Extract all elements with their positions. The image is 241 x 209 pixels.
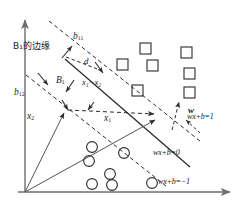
label-eq-minus-one: wx+b=−1 xyxy=(158,178,190,186)
data-point-circle-support xyxy=(119,148,130,159)
label-eq-zero: wx+b=0 xyxy=(153,149,179,157)
label-eq-plus-one: wx+b=1 xyxy=(187,113,213,121)
label-x2-subscript: 2 xyxy=(31,115,34,121)
label-x1-subscript: 1 xyxy=(108,117,111,123)
label-b11-subscript: 11 xyxy=(78,35,84,41)
label-x1: x1 xyxy=(104,114,111,124)
data-point-circle xyxy=(87,142,98,153)
vector-x2-ray xyxy=(25,113,64,192)
data-point-square xyxy=(117,59,128,70)
data-point-circle xyxy=(107,180,118,191)
label-B1-subscript: 1 xyxy=(62,79,65,85)
data-point-square xyxy=(184,68,195,79)
leader-B1-tick xyxy=(62,100,68,110)
margin-line-b11 xyxy=(49,21,200,141)
data-point-square xyxy=(140,43,151,54)
data-point-circle-support xyxy=(147,178,158,189)
label-B1: B1 xyxy=(56,76,65,86)
data-point-square-support xyxy=(132,85,143,96)
label-margin-of-b1: B₁的边缘 xyxy=(13,42,50,51)
label-d: d xyxy=(84,57,89,66)
data-point-square xyxy=(181,47,192,58)
figure-canvas xyxy=(0,0,241,209)
leader-margin-label xyxy=(62,46,72,58)
pointer-x1-minus-x2 xyxy=(88,102,94,110)
margin-line-b12 xyxy=(26,75,166,186)
data-point-square xyxy=(184,87,195,98)
data-point-square xyxy=(147,60,158,71)
data-points-circles xyxy=(84,142,158,191)
leader-B1-label xyxy=(66,80,74,92)
label-x1-minus-x2: x₁−x₂ xyxy=(82,78,101,87)
normal-vector-w xyxy=(172,102,179,130)
label-b11: b11 xyxy=(73,32,83,42)
label-x2: x2 xyxy=(27,112,34,122)
data-points-squares xyxy=(117,43,195,98)
leader-b12-label xyxy=(38,73,48,85)
label-b12-subscript: 12 xyxy=(19,91,25,97)
data-point-circle xyxy=(84,156,95,167)
margin-width-d-arrow xyxy=(95,62,103,73)
data-point-circle xyxy=(87,179,98,190)
label-b12: b12 xyxy=(14,88,25,98)
svm-margin-figure: B₁的边缘 b11 b12 B1 d x₁−x₂ x2 x1 w wx+b=1 … xyxy=(0,0,241,209)
data-point-circle xyxy=(105,169,116,180)
